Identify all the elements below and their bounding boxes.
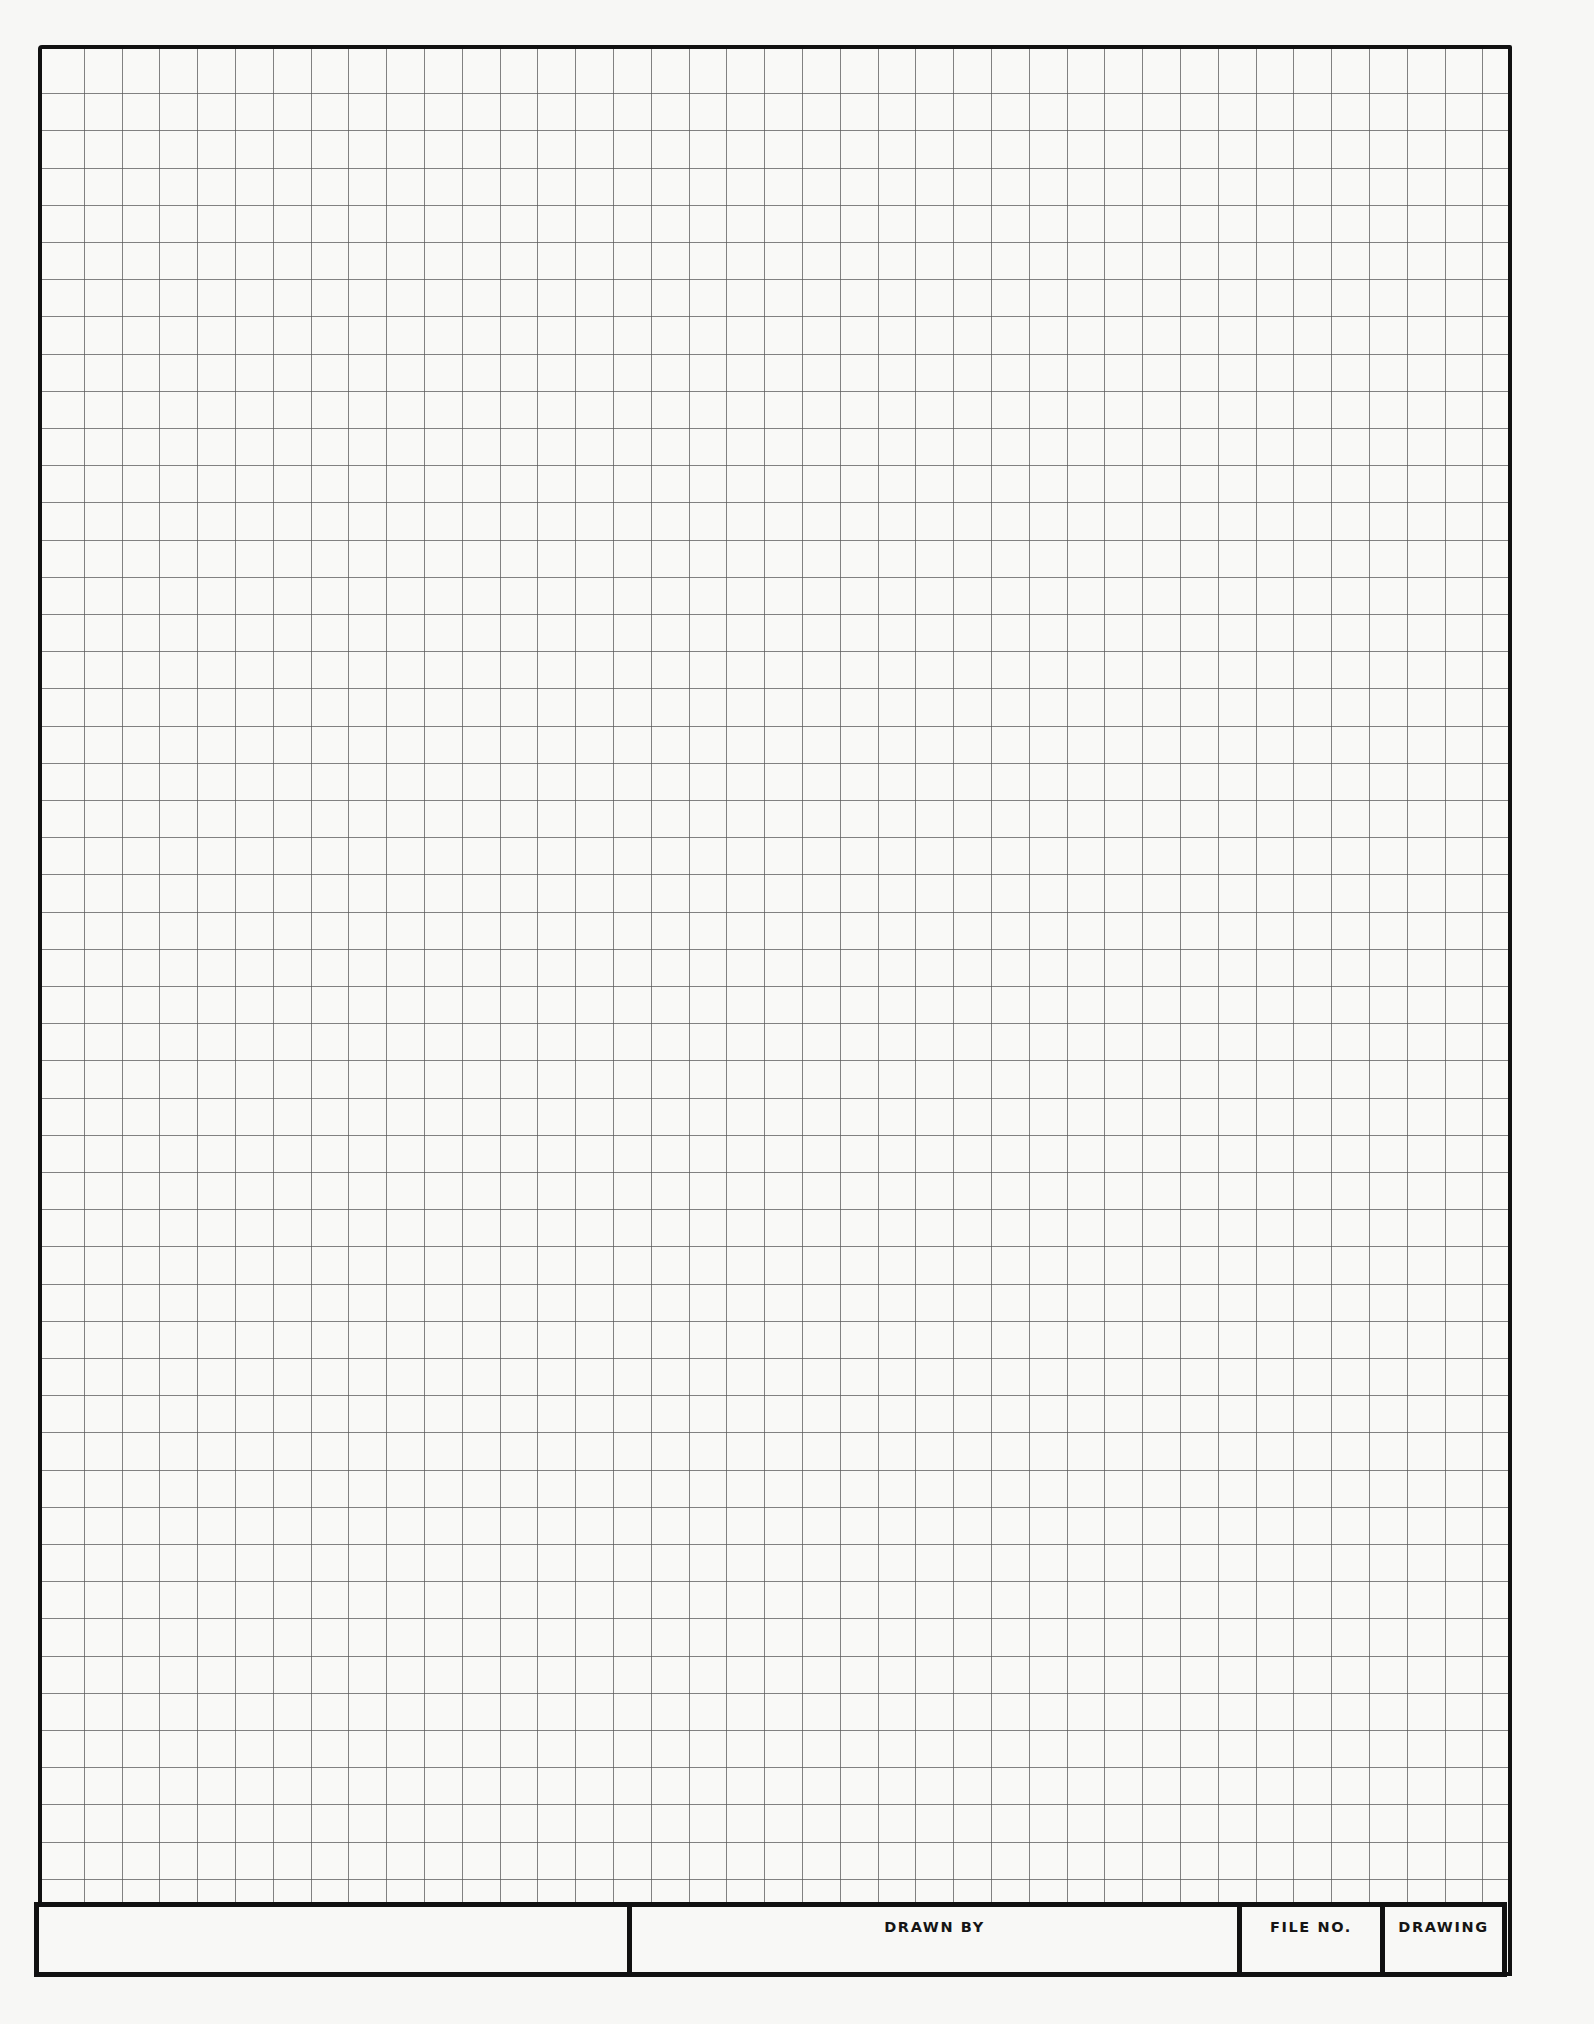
title-block-blank-field[interactable] <box>39 1907 632 1972</box>
drawing-field[interactable]: DRAWING <box>1385 1907 1502 1972</box>
title-block: DRAWN BY FILE NO. DRAWING <box>34 1902 1507 1977</box>
sheet-border-frame <box>38 45 1512 1976</box>
graph-paper-sheet: DRAWN BY FILE NO. DRAWING <box>0 0 1594 2024</box>
drawn-by-label: DRAWN BY <box>632 1919 1237 1935</box>
drawn-by-field[interactable]: DRAWN BY <box>632 1907 1242 1972</box>
drawing-label: DRAWING <box>1385 1919 1502 1935</box>
file-no-label: FILE NO. <box>1242 1919 1380 1935</box>
file-no-field[interactable]: FILE NO. <box>1242 1907 1385 1972</box>
